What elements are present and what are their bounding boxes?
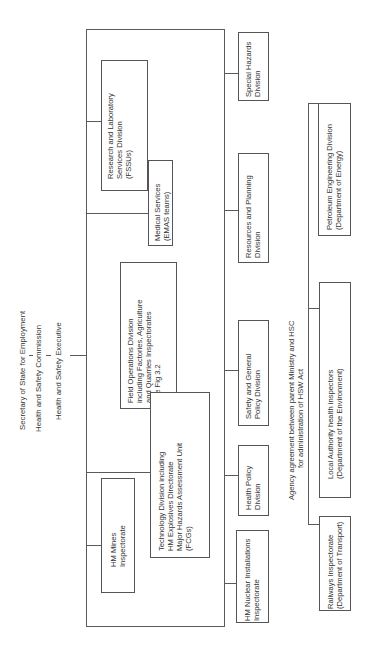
- hse-connector: [70, 355, 86, 356]
- connector-medical: [86, 213, 148, 214]
- header-secretary: Secretary of State for Employment: [18, 311, 27, 430]
- technology-l1: Technology Division including: [157, 452, 166, 551]
- connector-health: [224, 475, 238, 476]
- connector-nuclear: [224, 583, 236, 584]
- special-hazards-box: Special Hazards Division: [238, 32, 269, 101]
- header-commission: Health and Safety Commission: [34, 325, 43, 432]
- connector-special: [224, 73, 238, 74]
- left-spine: [86, 29, 87, 627]
- safety-l2: Policy Division: [253, 370, 262, 419]
- connector-railways: [308, 524, 319, 525]
- health-policy-box: Health Policy Division: [238, 445, 269, 516]
- frame-bottom: [86, 626, 224, 627]
- health-l2: Division: [253, 483, 262, 510]
- agency-note-l1: Agency agreement between parent Ministry…: [287, 321, 296, 500]
- petroleum-l1: Petroleum Engineering Division: [325, 124, 334, 230]
- safety-l1: Safety and General: [244, 354, 253, 419]
- header-separator-2: [46, 355, 51, 356]
- connector-mines: [86, 545, 101, 546]
- connector-local: [308, 308, 319, 309]
- connector-technology: [86, 472, 150, 473]
- research-l1: Research and Laboratory: [106, 93, 115, 179]
- safety-general-policy-box: Safety and General Policy Division: [238, 320, 269, 426]
- hm-mines-box: HM Mines Inspectorate: [101, 478, 135, 593]
- connector-petroleum: [308, 103, 318, 104]
- railways-l2: (Department of Transport): [335, 522, 344, 609]
- petroleum-l2: (Department of Energy): [334, 151, 343, 230]
- field-ops-l2: including Factories, Agriculture: [135, 300, 144, 403]
- mines-l1: HM Mines: [109, 533, 118, 567]
- field-ops-l1: Field Operations Division: [126, 319, 135, 403]
- railways-inspectorate-box: Railways Inspectorate (Department of Tra…: [319, 516, 351, 611]
- connector-safety: [224, 370, 238, 371]
- medical-l2: (EMAS teams): [162, 192, 171, 241]
- nuclear-l1: HM Nuclear Installations: [243, 539, 252, 621]
- local-authority-box: Local Authority health inspectors (Depar…: [319, 282, 351, 498]
- resources-planning-box: Resources and Planning Division: [238, 153, 269, 263]
- right-spine: [224, 29, 225, 627]
- field-operations-box: Field Operations Division including Fact…: [120, 262, 177, 409]
- special-l1: Special Hazards: [244, 42, 253, 97]
- header-executive: Health and Safety Executive: [54, 322, 63, 420]
- field-ops-l3: and Quarries Inspectorates: [144, 311, 153, 403]
- health-l1: Health Policy: [244, 466, 253, 510]
- petroleum-engineering-box: Petroleum Engineering Division (Departme…: [318, 103, 351, 236]
- research-l2: Services Division: [115, 121, 124, 179]
- medical-services-box: Medical Services (EMAS teams): [148, 160, 173, 246]
- railways-l1: Railways Inspectorate: [326, 535, 335, 609]
- hm-nuclear-box: HM Nuclear Installations Inspectorate: [236, 530, 269, 623]
- special-l2: Division: [253, 70, 262, 97]
- medical-l1: Medical Services: [153, 184, 162, 241]
- technology-l3: Major Hazards Assessment Unit: [175, 443, 184, 551]
- frame-top: [86, 29, 224, 30]
- local-l2: (Department of the Environment): [335, 368, 344, 479]
- connector-resources: [224, 210, 238, 211]
- technology-division-box: Technology Division including HM Explosi…: [150, 392, 210, 558]
- resources-l1: Resources and Planning: [244, 175, 253, 258]
- agency-note-l2: for administration of HSW Act: [296, 369, 305, 468]
- technology-l2: HM Explosives Directorate: [166, 462, 175, 551]
- agency-spine: [308, 103, 309, 525]
- resources-l2: Division: [253, 231, 262, 258]
- research-l3: (FSSUs): [124, 150, 133, 179]
- header-separator-1: [29, 355, 33, 356]
- connector-research: [86, 121, 101, 122]
- technology-l4: (FCGs): [184, 526, 193, 551]
- nuclear-l2: Inspectorate: [252, 579, 261, 621]
- research-lab-box: Research and Laboratory Services Divisio…: [101, 60, 148, 191]
- local-l1: Local Authority health inspectors: [326, 370, 335, 479]
- mines-l2: Inspectorate: [118, 525, 127, 567]
